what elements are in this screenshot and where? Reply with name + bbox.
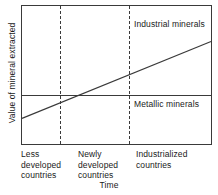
category-label-line: developed xyxy=(21,160,61,171)
category-label-line: Less xyxy=(21,149,61,160)
annotation-industrial-minerals: Industrial minerals xyxy=(134,19,205,29)
category-label-industrialized: Industrialized countries xyxy=(136,149,187,170)
y-axis-title: Value of mineral extracted xyxy=(7,3,17,143)
x-axis-title: Time xyxy=(0,180,218,190)
category-label-line: developed xyxy=(78,160,118,171)
annotation-metallic-minerals: Metallic minerals xyxy=(134,99,199,109)
category-label-less-developed: Less developed countries xyxy=(21,149,61,181)
category-label-line: countries xyxy=(136,160,187,171)
category-label-line: countries xyxy=(21,170,61,181)
chart-container: Value of mineral extracted Industrial mi… xyxy=(0,0,218,195)
category-label-line: Industrialized xyxy=(136,149,187,160)
plot-area: Industrial minerals Metallic minerals xyxy=(21,5,212,145)
category-label-line: countries xyxy=(78,170,118,181)
category-label-line: Newly xyxy=(78,149,118,160)
category-label-newly-developed: Newly developed countries xyxy=(78,149,118,181)
